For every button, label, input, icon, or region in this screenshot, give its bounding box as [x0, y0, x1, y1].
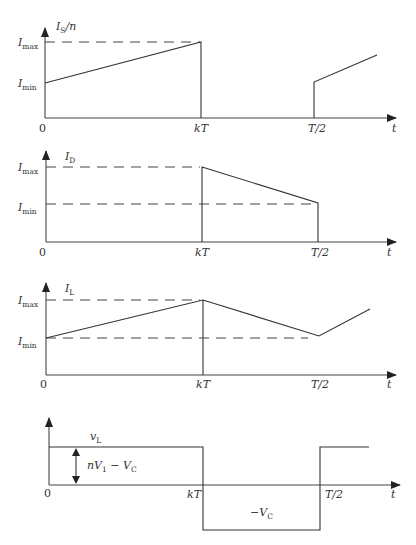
tick-T-half: T/2	[311, 378, 329, 391]
ylabel: IL	[64, 282, 74, 297]
origin-label: 0	[40, 378, 47, 391]
ylabel: IS/n	[55, 20, 76, 35]
xlabel: t	[387, 246, 392, 259]
arrow-down-icon	[72, 476, 80, 484]
imax-label: Imax	[17, 294, 39, 309]
negative-level-label: −VC	[250, 506, 273, 521]
tick-T-half: T/2	[311, 246, 329, 259]
switch-current-next-ramp	[314, 55, 377, 118]
inductor-current-triangle	[46, 300, 370, 338]
switch-current-ramp	[45, 42, 201, 118]
panel-diode-current: ID Imax Imin 0 kT T/2 t	[17, 150, 396, 259]
xlabel: t	[392, 122, 397, 135]
tick-kT: kT	[195, 246, 211, 259]
amplitude-label: nV1 − VC	[87, 459, 137, 474]
ylabel: vL	[90, 430, 101, 445]
imin-label: Imin	[17, 335, 37, 350]
origin-label: 0	[39, 246, 46, 259]
tick-kT: kT	[196, 378, 212, 391]
panel-switch-current: IS/n Imax Imin 0 kT T/2 t	[17, 20, 397, 135]
imax-label: Imax	[17, 161, 39, 176]
xlabel: t	[387, 378, 392, 391]
panel-inductor-current: IL Imax Imin 0 kT T/2 t	[17, 282, 396, 391]
origin-label: 0	[44, 487, 51, 500]
arrow-up-icon	[72, 448, 80, 456]
tick-T-half: T/2	[325, 488, 343, 501]
tick-T-half: T/2	[308, 122, 326, 135]
origin-label: 0	[39, 122, 46, 135]
tick-kT: kT	[194, 122, 210, 135]
imin-label: Imin	[17, 77, 37, 92]
panel-inductor-voltage: vL nV1 − VC −VC 0 kT T/2 t	[44, 418, 400, 530]
imax-label: Imax	[17, 36, 39, 51]
imin-label: Imin	[17, 201, 37, 216]
tick-kT: kT	[187, 488, 203, 501]
ylabel: ID	[64, 150, 75, 165]
xlabel: t	[391, 488, 396, 501]
waveform-diagram: IS/n Imax Imin 0 kT T/2 t ID Imax Imin 0…	[0, 0, 416, 545]
